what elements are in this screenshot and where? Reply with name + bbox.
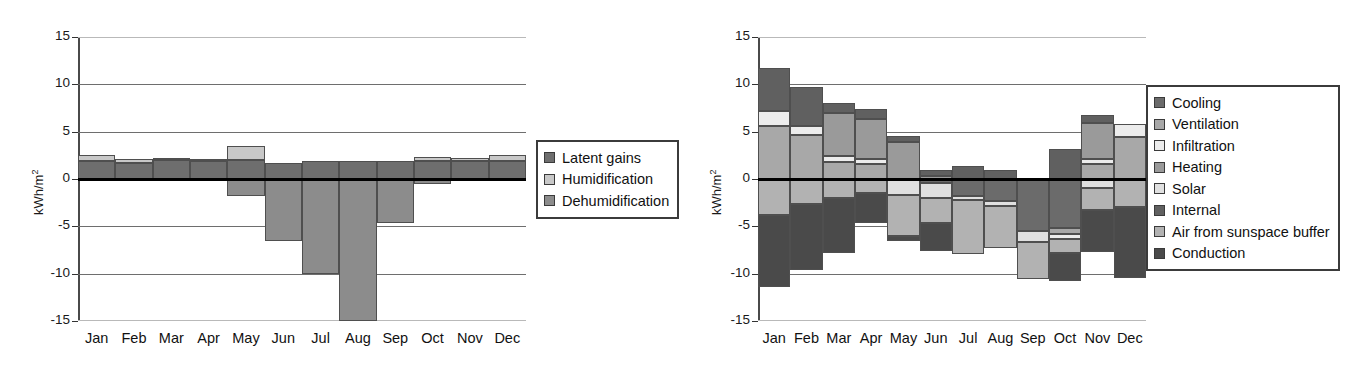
legend-swatch-icon <box>544 152 555 163</box>
legend-label: Internal <box>1172 203 1220 218</box>
bar-segment <box>758 126 790 179</box>
x-axis-label-jan: Jan <box>758 330 790 346</box>
bar-segment <box>377 179 414 223</box>
bar-segment <box>758 179 790 215</box>
bar-segment <box>377 161 414 179</box>
bar-segment <box>1049 149 1081 179</box>
bar-segment <box>451 161 488 179</box>
bar-segment <box>153 160 190 179</box>
latent-loads-chart: kWh/m2 151050-5-10-15 JanFebMarAprMayJun… <box>0 0 690 374</box>
bar-segment <box>952 166 984 179</box>
x-axis-labels: JanFebMarAprMayJunJulAugSepOctNovDec <box>78 330 526 346</box>
legend-item[interactable]: Infiltration <box>1154 135 1330 157</box>
legend: CoolingVentilationInfiltrationHeatingSol… <box>1146 85 1340 271</box>
bar-segment <box>227 146 264 160</box>
legend-swatch-icon <box>544 174 555 185</box>
bar-segment <box>823 113 855 157</box>
bar-segment <box>115 163 152 179</box>
x-axis-label-dec: Dec <box>1114 330 1146 346</box>
x-axis-label-aug: Aug <box>339 330 376 346</box>
bar-segment <box>190 159 227 161</box>
y-axis-tick-mark <box>72 321 78 322</box>
y-axis-tick-label: 15 <box>716 29 750 43</box>
bar-segment <box>1017 242 1049 279</box>
bar-segment <box>1081 164 1113 179</box>
bar-segment <box>790 179 822 204</box>
legend-item[interactable]: Dehumidification <box>544 190 669 212</box>
bar-segment <box>451 158 488 161</box>
bar-segment <box>887 236 919 241</box>
bar-segment <box>1114 137 1146 179</box>
y-axis-tick-label: 0 <box>36 171 70 185</box>
x-axis-label-apr: Apr <box>855 330 887 346</box>
bar-segment <box>339 179 376 321</box>
legend-swatch-icon <box>1154 97 1165 108</box>
bar-segment <box>1017 179 1049 231</box>
x-axis-label-may: May <box>887 330 919 346</box>
legend-label: Conduction <box>1172 246 1245 261</box>
x-axis-label-jun: Jun <box>920 330 952 346</box>
legend-item[interactable]: Ventilation <box>1154 114 1330 136</box>
legend-item[interactable]: Air from sunspace buffer <box>1154 221 1330 243</box>
bar-segment <box>414 157 451 161</box>
bar-segment <box>823 103 855 112</box>
bar-segment <box>790 126 822 135</box>
bar-segment <box>339 161 376 179</box>
bar-segment <box>887 136 919 142</box>
legend: Latent gainsHumidificationDehumidificati… <box>536 140 679 219</box>
bar-segment <box>1081 210 1113 252</box>
bar-segment <box>227 179 264 196</box>
bar-segment <box>920 223 952 251</box>
legend-swatch-icon <box>544 195 555 206</box>
legend-label: Dehumidification <box>562 194 669 209</box>
legend-item[interactable]: Solar <box>1154 178 1330 200</box>
legend-label: Air from sunspace buffer <box>1172 225 1330 240</box>
bar-segment <box>823 162 855 179</box>
legend-swatch-icon <box>1154 140 1165 151</box>
bar-segment <box>1049 239 1081 253</box>
legend-item[interactable]: Heating <box>1154 157 1330 179</box>
x-axis-label-jan: Jan <box>78 330 115 346</box>
legend-item[interactable]: Humidification <box>544 169 669 191</box>
bar-segment <box>1049 253 1081 281</box>
bar-segment <box>887 142 919 179</box>
legend-item[interactable]: Cooling <box>1154 92 1330 114</box>
bar-segment <box>920 170 952 177</box>
bar-segment <box>920 198 952 223</box>
bar-segment <box>790 204 822 270</box>
bar-segment <box>1114 207 1146 278</box>
bar-segment <box>78 161 115 179</box>
bar-segment <box>78 155 115 161</box>
y-axis-tick-label: 0 <box>716 171 750 185</box>
bar-segment <box>302 179 339 274</box>
bar-segment <box>227 160 264 179</box>
bar-segment <box>855 119 887 159</box>
x-axis-labels: JanFebMarAprMayJunJulAugSepOctNovDec <box>758 330 1146 346</box>
bar-segment <box>489 155 526 161</box>
x-axis-label-apr: Apr <box>190 330 227 346</box>
bar-segment <box>887 195 919 236</box>
legend-item[interactable]: Internal <box>1154 200 1330 222</box>
bar-segment <box>1114 124 1146 137</box>
legend-item[interactable]: Latent gains <box>544 147 669 169</box>
legend-swatch-icon <box>1154 226 1165 237</box>
x-axis-label-oct: Oct <box>1049 330 1081 346</box>
bar-segment <box>1017 231 1049 242</box>
legend-item[interactable]: Conduction <box>1154 243 1330 265</box>
y-axis-tick-label: -5 <box>716 218 750 232</box>
bar-segment <box>855 193 887 223</box>
y-axis-tick-label: -15 <box>716 313 750 327</box>
bar-segment <box>758 111 790 126</box>
legend-swatch-icon <box>1154 248 1165 259</box>
legend-label: Solar <box>1172 182 1206 197</box>
bar-segment <box>265 179 302 241</box>
bar-segment <box>887 179 919 195</box>
bar-segment <box>952 200 984 254</box>
y-axis-tick-label: -5 <box>36 218 70 232</box>
legend-label: Humidification <box>562 172 653 187</box>
bar-segment <box>855 109 887 119</box>
y-axis-tick-mark <box>752 321 758 322</box>
y-axis-tick-label: 5 <box>36 124 70 138</box>
x-axis-label-sep: Sep <box>377 330 414 346</box>
legend-swatch-icon <box>1154 162 1165 173</box>
